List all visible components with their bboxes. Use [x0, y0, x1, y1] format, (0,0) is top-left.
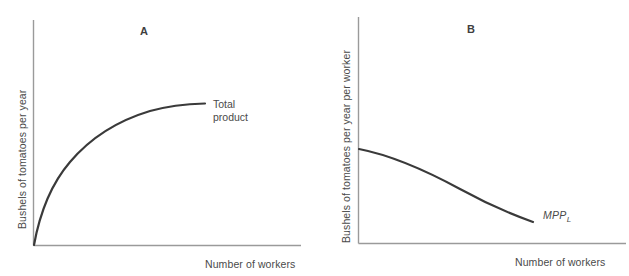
total-product-label-line1: Total: [213, 98, 248, 111]
panel-b-mpp-curve: [359, 149, 533, 222]
panel-a-x-axis-label: Number of workers: [205, 258, 295, 270]
total-product-curve-label: Total product: [213, 98, 248, 123]
panel-a-total-product-curve: [34, 104, 205, 246]
panel-b-plot-area: [315, 0, 629, 276]
panel-b-y-axis-label: Bushels of tomatoes per year per worker: [340, 50, 352, 243]
mpp-label-main: MPP: [543, 209, 567, 221]
panel-a-y-axis-label: Bushels of tomatoes per year: [16, 90, 28, 229]
mpp-label-subscript: L: [567, 215, 572, 224]
two-panel-production-figure: A Bushels of tomatoes per year Number of…: [0, 0, 629, 276]
mpp-curve-label: MPPL: [543, 209, 571, 227]
panel-a-letter: A: [140, 25, 148, 37]
panel-b-x-axis-label: Number of workers: [515, 256, 605, 268]
panel-a-total-product: A Bushels of tomatoes per year Number of…: [0, 0, 315, 276]
panel-b-marginal-product: B Bushels of tomatoes per year per worke…: [315, 0, 629, 276]
total-product-label-line2: product: [213, 111, 248, 124]
panel-b-letter: B: [467, 23, 475, 35]
panel-a-plot-area: [0, 0, 315, 276]
